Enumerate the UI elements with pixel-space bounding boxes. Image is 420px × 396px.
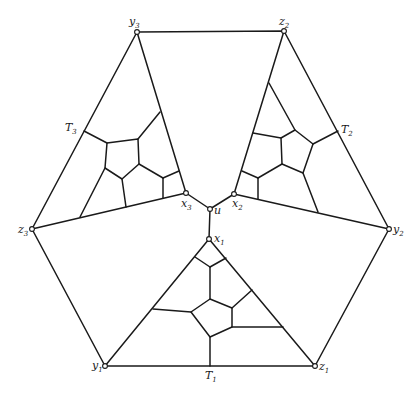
label-z1: z1 [318,360,329,375]
label-x3: x3 [181,197,192,212]
node-x1 [207,237,212,242]
label-y3: y3 [128,15,140,30]
node-y3 [135,30,140,35]
label-T1: T1 [205,369,217,384]
label-y2: y2 [392,223,404,238]
gadget-T3 [32,32,186,229]
graph-diagram: y3 z2 T3 T2 x3 x2 u x1 z3 y2 y1 z1 T1 [0,0,420,396]
label-u: u [214,204,221,217]
node-y1 [103,364,108,369]
label-z3: z3 [17,223,29,238]
nodes [30,29,392,369]
outer-hexagon [32,31,389,366]
gadget-T2 [234,31,389,229]
node-z3 [30,227,35,232]
node-z1 [313,364,318,369]
label-y1: y1 [91,359,103,374]
label-T2: T2 [341,123,353,138]
node-x3 [184,191,189,196]
label-z2: z2 [278,15,290,30]
node-x2 [232,192,237,197]
labels: y3 z2 T3 T2 x3 x2 u x1 z3 y2 y1 z1 T1 [17,15,404,384]
label-x2: x2 [232,197,243,212]
graph-svg: y3 z2 T3 T2 x3 x2 u x1 z3 y2 y1 z1 T1 [0,0,420,396]
center-spokes [186,193,234,239]
label-x1: x1 [214,232,225,247]
node-u [208,207,213,212]
gadget-T1 [105,239,315,366]
label-T3: T3 [65,121,77,136]
node-y2 [387,227,392,232]
